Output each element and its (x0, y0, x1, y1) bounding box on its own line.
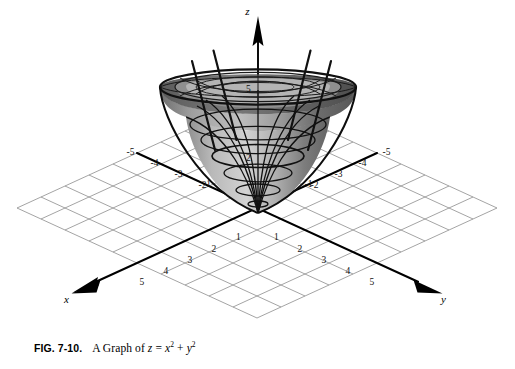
y-tick-neg-2: -2 (311, 180, 319, 190)
x-tick-2: 2 (212, 244, 217, 254)
x-axis-label: x (63, 293, 69, 305)
y-tick-neg-5: -5 (383, 147, 391, 157)
figure-caption-text: A Graph of z = x2 + y2 (92, 342, 196, 354)
z-tick-5: 5 (246, 84, 251, 94)
y-axis-label: y (440, 293, 446, 305)
y-tick-4: 4 (346, 266, 351, 276)
x-tick-5: 5 (140, 277, 145, 287)
x-tick-4: 4 (164, 266, 169, 276)
x-tick-neg-3: -3 (175, 169, 183, 179)
equation-lhs: z (148, 342, 153, 354)
x-tick-3: 3 (188, 255, 193, 265)
equation-plus: + (177, 342, 184, 354)
figure-number: FIG. 7-10. (34, 342, 82, 354)
x-tick-1: 1 (236, 232, 241, 242)
y-tick-neg-3: -3 (335, 169, 343, 179)
equation-term1-exp: 2 (170, 340, 174, 349)
paraboloid-surface (160, 69, 356, 213)
y-tick-neg-1: -1 (203, 179, 211, 189)
y-tick-3: 3 (322, 255, 327, 265)
figure-container: -1 -2 -3 -4 -5 1 2 3 4 5 -1 -2 -3 -4 -5 (0, 0, 515, 369)
equation-equals: = (155, 342, 162, 354)
equation-term2-exp: 2 (192, 340, 196, 349)
y-tick-2: 2 (298, 244, 303, 254)
caption-prefix: A Graph of (92, 342, 145, 354)
z-axis-arrowhead (253, 16, 264, 46)
y-tick-1: 1 (274, 232, 279, 242)
x-tick-neg-4: -4 (151, 158, 159, 168)
z-axis-label: z (244, 5, 250, 17)
paraboloid-figure-svg: -1 -2 -3 -4 -5 1 2 3 4 5 -1 -2 -3 -4 -5 (0, 0, 515, 369)
y-tick-5: 5 (370, 277, 375, 287)
z-tick-2: 2 (246, 153, 251, 163)
x-tick-neg-5: -5 (127, 147, 135, 157)
figure-caption: FIG. 7-10. A Graph of z = x2 + y2 (34, 340, 196, 354)
y-tick-neg-4: -4 (359, 158, 367, 168)
